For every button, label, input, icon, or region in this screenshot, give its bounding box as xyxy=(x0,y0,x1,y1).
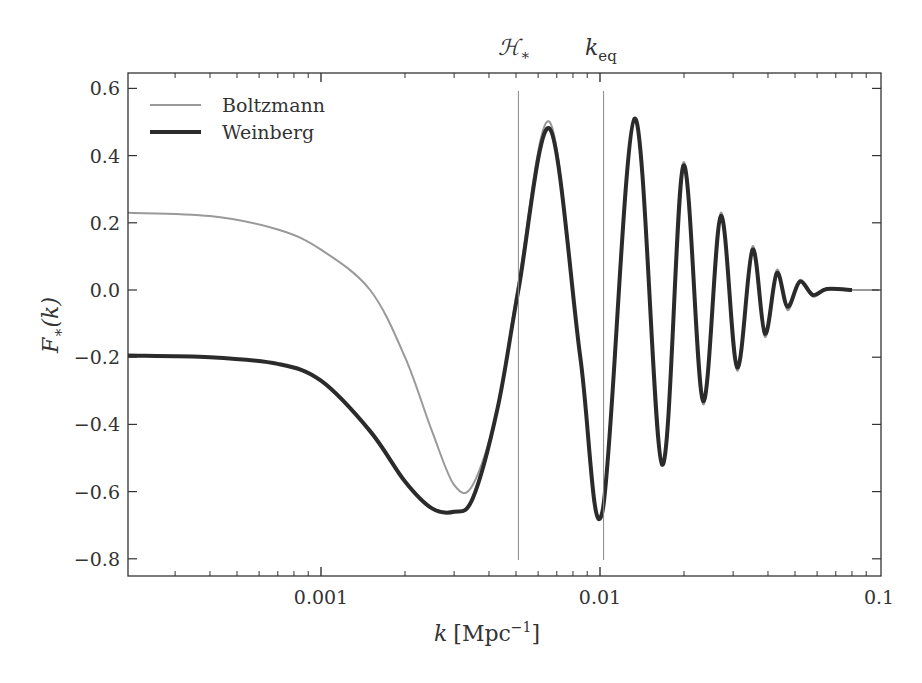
y-tick-label: 0.2 xyxy=(90,212,120,234)
x-axis-label: k[Mpc−1] xyxy=(434,619,540,646)
y-tick-label: −0.4 xyxy=(74,413,120,435)
x-tick-label: 0.001 xyxy=(294,586,348,608)
legend: Boltzmann Weinberg xyxy=(150,94,325,143)
x-tick-label: 0.01 xyxy=(579,586,621,608)
chart: 0.0010.010.1 0.60.40.20.0−0.2−0.4−0.6−0.… xyxy=(0,0,922,683)
series-weinberg-line xyxy=(128,118,852,519)
y-tick-label: 0.0 xyxy=(90,279,120,301)
y-tick-label: −0.6 xyxy=(74,481,120,503)
y-tick-label: 0.4 xyxy=(90,145,120,167)
legend-label-boltzmann: Boltzmann xyxy=(222,94,325,116)
legend-label-weinberg: Weinberg xyxy=(222,121,314,143)
curves xyxy=(128,118,879,519)
k-eq-label: keq xyxy=(585,35,617,65)
x-ticks: 0.0010.010.1 xyxy=(175,73,894,608)
y-tick-label: 0.6 xyxy=(90,77,120,99)
series-boltzmann-line xyxy=(128,118,879,519)
y-tick-label: −0.8 xyxy=(74,548,120,570)
y-ticks: 0.60.40.20.0−0.2−0.4−0.6−0.8 xyxy=(74,77,881,569)
x-tick-label: 0.1 xyxy=(864,586,894,608)
y-axis-label: F∗(k) xyxy=(38,297,67,354)
y-tick-label: −0.2 xyxy=(74,346,120,368)
h-star-label: ℋ∗ xyxy=(498,35,530,64)
